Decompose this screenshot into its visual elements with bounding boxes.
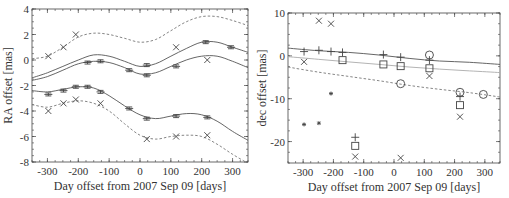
x-marker	[328, 21, 334, 27]
x-tick-label: -300	[293, 166, 314, 178]
fit-line	[288, 67, 500, 97]
plot-frame	[288, 13, 500, 163]
x-tick-label: 0	[391, 166, 397, 178]
+-marker	[379, 51, 387, 59]
x-marker	[398, 155, 404, 161]
+-marker	[315, 46, 323, 54]
x-tick-label: 200	[446, 166, 463, 178]
square-marker	[352, 142, 359, 149]
+-marker	[397, 53, 405, 61]
y-tick-label: 0	[280, 50, 286, 62]
x-marker	[426, 73, 432, 79]
*-marker	[329, 92, 333, 96]
y-tick-label: -20	[270, 136, 285, 148]
x-marker	[457, 114, 463, 120]
*-marker	[302, 122, 306, 126]
dec-offset-chart: -300-200-1000100200300100-10-20Day offse…	[0, 0, 509, 198]
x-marker	[316, 18, 322, 24]
x-tick-label: -100	[354, 166, 375, 178]
x-tick-label: 300	[477, 166, 494, 178]
square-marker	[457, 102, 464, 109]
x-tick-label: 100	[416, 166, 433, 178]
y-tick-label: -10	[270, 93, 285, 105]
square-marker	[339, 57, 346, 64]
*-marker	[317, 121, 321, 125]
x-axis-label: Day offset from 2007 Sep 09 [days]	[308, 180, 480, 194]
y-axis-label: dec offset [mas]	[255, 49, 269, 126]
x-tick-label: -200	[323, 166, 344, 178]
+-marker	[300, 48, 308, 56]
x-marker	[301, 59, 307, 65]
y-tick-label: 10	[274, 7, 286, 19]
figure: -300-200-1000100200300420-2-4-6-8Day off…	[0, 0, 509, 198]
x-marker	[352, 154, 358, 160]
+-marker	[327, 48, 335, 56]
+-marker	[339, 48, 347, 56]
+-marker	[351, 133, 359, 141]
fit-line	[288, 57, 500, 73]
